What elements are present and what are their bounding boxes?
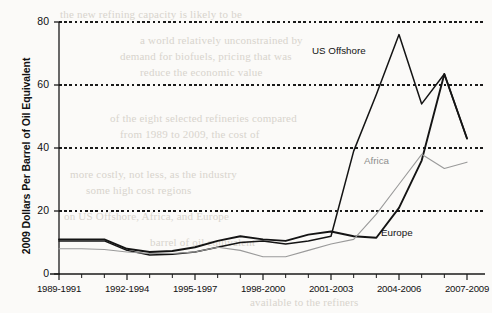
- gridlines: [59, 22, 485, 211]
- series-label-us-offshore: US Offshore: [312, 45, 366, 56]
- series-label-europe: Europe: [381, 227, 413, 238]
- chart-plot-area: [0, 0, 492, 313]
- series-label-africa: Africa: [364, 155, 389, 166]
- data-series-lines: [59, 35, 467, 257]
- chart-container: the new refining capacity is likely to b…: [0, 0, 492, 313]
